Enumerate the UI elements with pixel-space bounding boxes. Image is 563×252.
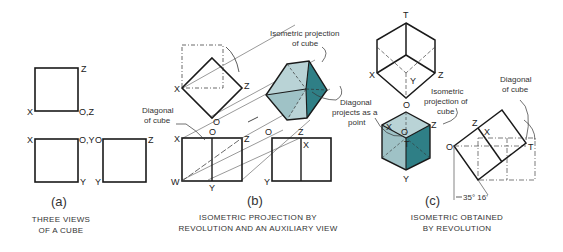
label-o: O xyxy=(401,127,408,137)
cube-projection-diagram: Z X O,Z X O,Y Y O Y Z (a) THREE VIEWS OF… xyxy=(0,0,563,252)
label-z: Z xyxy=(431,120,437,130)
caption-c-line2: BY REVOLUTION xyxy=(423,224,492,233)
note-diagonal-point: Diagonal xyxy=(340,98,372,107)
top-view-square xyxy=(35,68,78,111)
revolved-cube-view xyxy=(454,110,526,180)
label-z: Z xyxy=(244,81,250,91)
label-y: Y xyxy=(80,177,86,187)
label-w: W xyxy=(171,177,180,187)
angle-label: 35° 16' xyxy=(463,193,488,202)
label-o: O xyxy=(213,117,220,127)
label-y: Y xyxy=(264,177,270,187)
panel-c xyxy=(375,23,535,200)
caption-a-line2: OF A CUBE xyxy=(39,226,84,235)
label-y: Y xyxy=(95,177,101,187)
label-x: X xyxy=(174,134,180,144)
label-oy: O,Y xyxy=(79,135,95,145)
diagram-svg: Z X O,Z X O,Y Y O Y Z (a) THREE VIEWS OF… xyxy=(0,0,563,252)
label-o: O xyxy=(265,127,272,137)
panel-b xyxy=(176,25,342,181)
caption-a-line1: THREE VIEWS xyxy=(32,215,90,224)
note-diagonal: Diagonal xyxy=(500,75,532,84)
caption-b-line1: ISOMETRIC PROJECTION BY xyxy=(199,213,317,222)
label-z: Z xyxy=(148,135,154,145)
note-isometric: Isometric xyxy=(431,87,463,96)
note-point: point xyxy=(348,118,366,127)
label-oz: O,Z xyxy=(79,107,95,117)
label-z: Z xyxy=(472,118,478,128)
note-projects-as-a: projects as a xyxy=(332,108,378,117)
label-t: T xyxy=(404,139,410,149)
label-x: X xyxy=(174,84,180,94)
label-x: X xyxy=(369,70,375,80)
caption-c-line1: ISOMETRIC OBTAINED xyxy=(411,213,503,222)
label-o: O xyxy=(209,127,216,137)
front-view-square xyxy=(35,139,78,182)
label-t: T xyxy=(528,142,534,152)
label-o: O xyxy=(446,142,453,152)
label-z: Z xyxy=(438,70,444,80)
note-projection-of: projection of xyxy=(424,97,468,106)
note-of-cube: of cube xyxy=(144,116,171,125)
note-of-cube: of cube xyxy=(292,39,319,48)
note-of-cube: of cube xyxy=(502,85,529,94)
note-cube: cube xyxy=(437,107,455,116)
label-x: X xyxy=(27,107,33,117)
label-o: O xyxy=(403,100,410,110)
label-z: Z xyxy=(81,64,87,74)
label-y: Y xyxy=(410,76,416,86)
label-x: X xyxy=(27,135,33,145)
isometric-hexagon xyxy=(266,61,327,120)
sublabel-a: (a) xyxy=(51,194,67,209)
label-z: Z xyxy=(244,134,250,144)
direction-arrow xyxy=(248,117,258,122)
note-diagonal: Diagonal xyxy=(142,106,174,115)
label-o: O xyxy=(95,135,102,145)
label-x: X xyxy=(386,122,392,132)
revolved-top-view xyxy=(182,58,242,118)
note-isometric-projection: Isometric projection xyxy=(270,29,339,38)
caption-b-line2: REVOLUTION AND AN AUXILIARY VIEW xyxy=(178,224,337,233)
panel-a-labels: Z X O,Z X O,Y Y O Y Z (a) THREE VIEWS OF… xyxy=(27,64,154,235)
sublabel-c: (c) xyxy=(425,193,440,208)
label-x: X xyxy=(303,140,309,150)
panel-a xyxy=(35,68,146,182)
label-y: Y xyxy=(403,174,409,184)
sublabel-b: (b) xyxy=(247,193,263,208)
panel-b-labels: X Z O X O Z W Y O Z X Y Isometric projec… xyxy=(142,29,378,233)
label-y: Y xyxy=(209,183,215,193)
label-t: T xyxy=(403,10,409,20)
label-z: Z xyxy=(298,127,304,137)
rotation-arrow xyxy=(226,47,239,72)
side-view-square xyxy=(103,139,146,182)
label-x: X xyxy=(484,127,490,137)
